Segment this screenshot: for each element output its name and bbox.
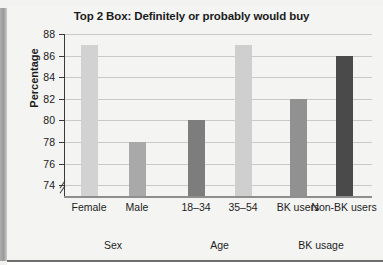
gridline bbox=[65, 185, 372, 186]
page-edge-shadow bbox=[0, 8, 7, 261]
y-axis-tick bbox=[59, 142, 64, 143]
y-axis-tick bbox=[59, 99, 64, 100]
bar-bk-users bbox=[290, 99, 307, 196]
y-axis-tick bbox=[59, 185, 64, 186]
bar-male bbox=[129, 142, 146, 196]
group-label-bk-usage: BK usage bbox=[276, 239, 366, 251]
y-axis-tick-label: 74 bbox=[15, 179, 55, 191]
bar-non-bk-users bbox=[336, 56, 353, 196]
gridline bbox=[65, 99, 372, 100]
group-label-sex: Sex bbox=[68, 239, 158, 251]
chart-title: Top 2 Box: Definitely or probably would … bbox=[0, 10, 383, 22]
y-axis-line bbox=[64, 34, 65, 196]
y-axis-tick bbox=[59, 34, 64, 35]
gridline bbox=[65, 77, 372, 78]
y-axis-tick bbox=[59, 164, 64, 165]
category-label: Non-BK users bbox=[310, 201, 378, 213]
bar-35-54 bbox=[235, 45, 252, 196]
plot-area bbox=[65, 34, 372, 196]
gridline bbox=[65, 56, 372, 57]
category-label: Male bbox=[103, 201, 171, 213]
y-axis-tick-label: 76 bbox=[15, 158, 55, 170]
gridline bbox=[65, 164, 372, 165]
bar-18-34 bbox=[188, 120, 205, 196]
y-axis-tick bbox=[59, 120, 64, 121]
y-axis-tick bbox=[59, 56, 64, 57]
axis-break-icon bbox=[56, 178, 72, 198]
bar-female bbox=[81, 45, 98, 196]
x-axis-baseline bbox=[64, 196, 372, 198]
y-axis-tick bbox=[59, 77, 64, 78]
gridline bbox=[65, 142, 372, 143]
chart-figure: Top 2 Box: Definitely or probably would … bbox=[0, 0, 383, 265]
group-label-age: Age bbox=[175, 239, 265, 251]
gridline bbox=[65, 34, 372, 35]
gridline bbox=[65, 120, 372, 121]
y-axis-title: Percentage bbox=[28, 18, 40, 138]
